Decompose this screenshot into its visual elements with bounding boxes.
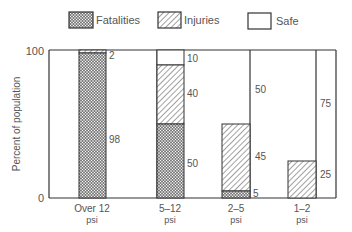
- y-tick-0: 0: [38, 192, 44, 204]
- bar-segment-injuries: [222, 124, 250, 191]
- value-label: 40: [187, 88, 199, 99]
- legend-item-fatalities: Fatalities: [69, 12, 141, 28]
- bar-segment-fatalities: [222, 191, 250, 198]
- bar-over-12-psi: 2 98: [79, 50, 121, 198]
- legend-item-safe: Safe: [248, 13, 299, 29]
- bar-segment-fatalities: [79, 53, 106, 198]
- bar-2-5-psi: 50 45 5: [222, 50, 267, 199]
- bar-segment-injuries: [288, 161, 316, 198]
- x-label-1-2: 1–2: [294, 203, 311, 214]
- stacked-bar-chart: Fatalities Injuries Safe Percent of popu…: [0, 0, 352, 232]
- x-label-2-5-unit: psi: [230, 215, 242, 225]
- legend-label-fatalities: Fatalities: [96, 14, 141, 26]
- x-label-1-2-unit: psi: [296, 215, 308, 225]
- value-label: 75: [320, 98, 332, 109]
- legend-label-injuries: Injuries: [184, 14, 220, 26]
- x-label-5-12: 5–12: [159, 203, 182, 214]
- y-axis-label: Percent of population: [11, 77, 22, 172]
- x-label-5-12-unit: psi: [164, 215, 176, 225]
- value-label: 45: [255, 151, 267, 162]
- value-label: 2: [109, 50, 115, 61]
- legend: Fatalities Injuries Safe: [69, 12, 299, 29]
- value-label: 10: [187, 53, 199, 64]
- diagonal-hatch-swatch-icon: [158, 12, 181, 28]
- bar-segment-safe: [157, 50, 184, 65]
- bar-5-12-psi: 10 40 50: [157, 50, 199, 198]
- value-label: 50: [255, 84, 267, 95]
- x-label-over-12: Over 12: [74, 203, 110, 214]
- x-axis-labels: Over 12 psi 5–12 psi 2–5 psi 1–2 psi: [74, 203, 311, 225]
- blank-swatch-icon: [248, 13, 271, 29]
- bar-segment-fatalities: [157, 124, 184, 198]
- legend-item-injuries: Injuries: [158, 12, 220, 28]
- x-label-2-5: 2–5: [228, 203, 245, 214]
- y-tick-100: 100: [26, 45, 44, 57]
- value-label: 98: [109, 134, 121, 145]
- value-label: 25: [320, 169, 332, 180]
- x-label-over-12-unit: psi: [86, 215, 98, 225]
- crosshatch-swatch-icon: [69, 12, 93, 28]
- legend-label-safe: Safe: [276, 15, 299, 27]
- bar-1-2-psi: 75 25: [288, 50, 332, 198]
- value-label: 50: [187, 158, 199, 169]
- value-label: 5: [253, 188, 259, 199]
- bar-segment-injuries: [157, 65, 184, 124]
